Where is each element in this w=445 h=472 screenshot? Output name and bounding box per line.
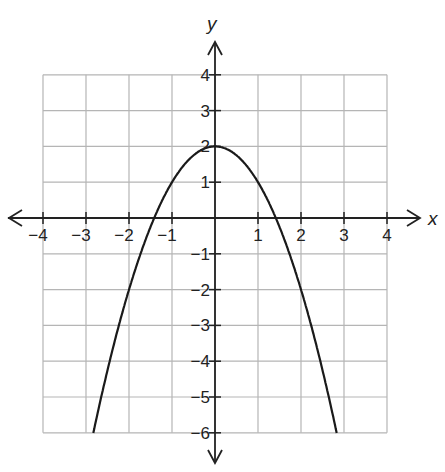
- y-tick-label: −5: [191, 388, 210, 407]
- axes: [8, 42, 420, 463]
- y-axis-label: y: [205, 13, 218, 34]
- x-tick-label: −3: [71, 226, 90, 245]
- x-tick-label: −2: [114, 226, 133, 245]
- y-tick-label: 4: [201, 66, 210, 85]
- y-tick-label: −2: [191, 281, 210, 300]
- x-tick-label: 1: [253, 226, 262, 245]
- x-axis-label: x: [427, 208, 439, 229]
- tick-labels: −4−3−2−112344321−1−2−3−4−5−6xy: [28, 13, 439, 443]
- y-tick-label: −1: [191, 245, 210, 264]
- coordinate-plane: −4−3−2−112344321−1−2−3−4−5−6xy: [0, 0, 445, 472]
- x-tick-label: 4: [382, 226, 391, 245]
- y-tick-label: 1: [201, 173, 210, 192]
- x-tick-label: −4: [28, 226, 47, 245]
- x-tick-label: −1: [157, 226, 176, 245]
- y-tick-label: 3: [201, 102, 210, 121]
- y-tick-label: −3: [191, 316, 210, 335]
- x-tick-label: 3: [339, 226, 348, 245]
- y-tick-label: −4: [191, 352, 210, 371]
- y-tick-label: −6: [191, 424, 210, 443]
- x-tick-label: 2: [296, 226, 305, 245]
- y-tick-label: 2: [201, 137, 210, 156]
